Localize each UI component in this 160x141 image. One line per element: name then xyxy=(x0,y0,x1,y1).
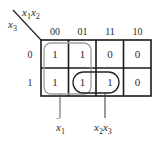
col-var-label: x1x2 xyxy=(21,6,40,21)
cell-r1-c2: 1 xyxy=(107,76,113,88)
cell-r1-c1: 1 xyxy=(80,76,86,88)
cell-r0-c2: 0 xyxy=(107,48,113,60)
cell-r1-c3: 0 xyxy=(135,76,141,88)
cell-r0-c3: 0 xyxy=(135,48,141,60)
group-x1-bar-overbar: ˉ xyxy=(57,115,60,125)
karnaugh-map-diagram: x1x2 x3 00 01 11 10 0 1 1 1 0 0 1 1 1 0 … xyxy=(0,0,160,141)
row-header-1: 1 xyxy=(28,77,33,88)
row-var-label: x3 xyxy=(7,18,17,33)
cell-r0-c1: 1 xyxy=(80,48,86,60)
col-header-01: 01 xyxy=(78,26,88,37)
row-header-0: 0 xyxy=(28,49,33,60)
col-header-00: 00 xyxy=(50,26,60,37)
col-header-11: 11 xyxy=(105,26,115,37)
cell-r1-c0: 1 xyxy=(52,76,58,88)
cell-r0-c0: 1 xyxy=(52,48,58,60)
group-x2x3-label: x2x3 xyxy=(93,121,112,136)
col-header-10: 10 xyxy=(133,26,143,37)
